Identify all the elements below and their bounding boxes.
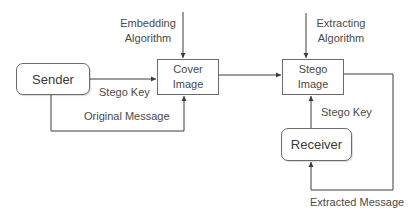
embedding-algorithm-label: Embedding Algorithm xyxy=(118,17,178,45)
stego-key-sender-label: Stego Key xyxy=(99,86,150,99)
receiver-node: Receiver xyxy=(281,128,352,161)
extracting-line2: Algorithm xyxy=(313,32,369,45)
sender-label: Sender xyxy=(32,72,74,87)
cover-image-label-line2: Image xyxy=(173,77,204,92)
extracting-line1: Extracting xyxy=(313,17,369,30)
embedding-line1: Embedding xyxy=(118,17,178,30)
stego-key-receiver-label: Stego Key xyxy=(321,106,372,119)
stego-image-label-line2: Image xyxy=(298,77,329,92)
extracted-message-label: Extracted Message xyxy=(310,196,404,209)
sender-node: Sender xyxy=(16,63,90,95)
stego-image-label-line1: Stego xyxy=(299,62,328,77)
embedding-line2: Algorithm xyxy=(118,32,178,45)
extracting-algorithm-label: Extracting Algorithm xyxy=(313,17,369,45)
original-message-label: Original Message xyxy=(84,110,170,123)
receiver-label: Receiver xyxy=(291,137,342,152)
stego-image-node: Stego Image xyxy=(282,59,344,95)
cover-image-label-line1: Cover xyxy=(173,62,202,77)
cover-image-node: Cover Image xyxy=(157,59,219,95)
